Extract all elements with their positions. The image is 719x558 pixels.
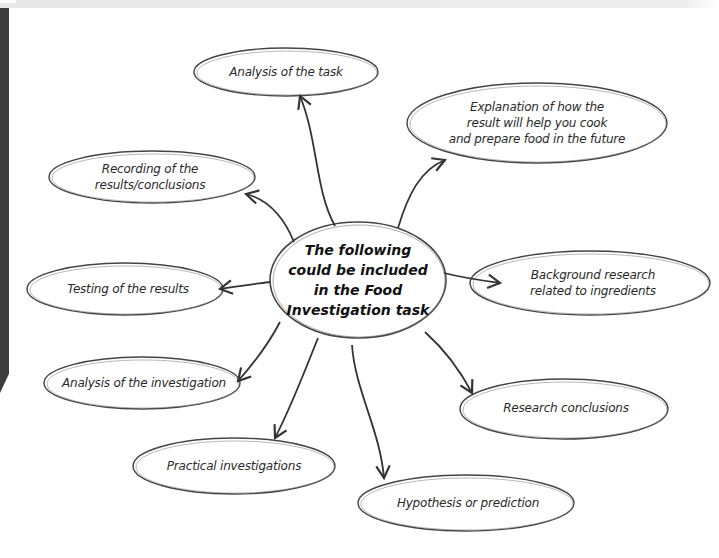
node-hypothesis: Hypothesis or prediction bbox=[397, 495, 539, 511]
node-background: Background research related to ingredien… bbox=[530, 267, 656, 299]
arrow-to-recording bbox=[246, 194, 294, 242]
node-explanation: Explanation of how the result will help … bbox=[449, 99, 626, 147]
node-analysis-investigation: Analysis of the investigation bbox=[62, 375, 226, 391]
node-recording: Recording of the results/conclusions bbox=[95, 161, 206, 193]
node-research-conclusions: Research conclusions bbox=[503, 400, 629, 416]
arrow-to-research-conclusions bbox=[425, 332, 472, 393]
arrow-to-hypothesis bbox=[352, 345, 384, 478]
arrow-to-analysis-investigation bbox=[238, 322, 280, 381]
arrow-to-background bbox=[444, 273, 500, 283]
arrow-to-analysis-task bbox=[300, 96, 335, 226]
node-practical: Practical investigations bbox=[167, 458, 301, 474]
arrow-to-testing bbox=[220, 282, 270, 289]
arrow-to-practical bbox=[275, 338, 318, 438]
node-testing: Testing of the results bbox=[67, 281, 189, 297]
central-topic: The following could be included in the F… bbox=[287, 240, 430, 320]
node-analysis-task: Analysis of the task bbox=[229, 64, 342, 80]
arrow-to-explanation bbox=[398, 160, 445, 228]
